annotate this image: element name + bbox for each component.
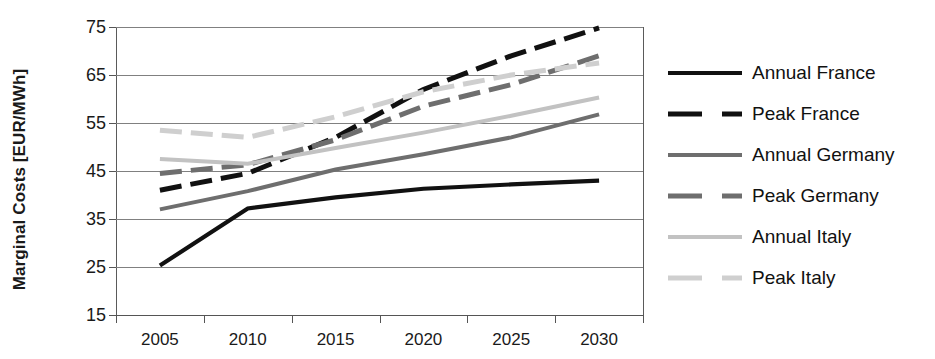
legend-item-peak-france[interactable]: Peak France — [668, 93, 928, 134]
legend-item-annual-italy[interactable]: Annual Italy — [668, 216, 928, 257]
legend-swatch-icon — [668, 271, 742, 285]
legend-item-annual-france[interactable]: Annual France — [668, 52, 928, 93]
x-tick-0 — [116, 315, 117, 323]
x-tick-label-2005: 2005 — [141, 330, 179, 350]
series-line-peak-italy — [160, 63, 599, 137]
legend-swatch-icon — [668, 189, 742, 203]
chart-figure: Marginal Costs [EUR/MWh] 15253545556575 … — [0, 0, 935, 359]
plot-area: 15253545556575 200520102015202020252030 — [116, 27, 643, 315]
x-tick-label-2010: 2010 — [229, 330, 267, 350]
y-tick-35 — [109, 219, 116, 220]
x-tick-4 — [467, 315, 468, 323]
y-tick-15 — [109, 315, 116, 316]
x-tick-1 — [204, 315, 205, 323]
y-tick-label-55: 55 — [86, 113, 106, 134]
x-tick-label-2030: 2030 — [580, 330, 618, 350]
legend-swatch-icon — [668, 148, 742, 162]
y-axis-title: Marginal Costs [EUR/MWh] — [0, 0, 40, 359]
y-tick-75 — [109, 27, 116, 28]
plot-right-border — [643, 27, 644, 315]
legend-swatch-icon — [668, 107, 742, 121]
y-tick-label-15: 15 — [86, 305, 106, 326]
legend-swatch-icon — [668, 230, 742, 244]
y-tick-label-65: 65 — [86, 65, 106, 86]
legend-label: Annual Italy — [752, 226, 851, 248]
y-tick-45 — [109, 171, 116, 172]
y-tick-label-25: 25 — [86, 257, 106, 278]
y-tick-label-75: 75 — [86, 17, 106, 38]
legend-label: Peak Germany — [752, 185, 879, 207]
x-tick-6 — [643, 315, 644, 323]
x-tick-label-2025: 2025 — [492, 330, 530, 350]
legend-label: Annual France — [752, 62, 876, 84]
x-tick-2 — [292, 315, 293, 323]
legend-item-annual-germany[interactable]: Annual Germany — [668, 134, 928, 175]
chart-legend: Annual FrancePeak FranceAnnual GermanyPe… — [668, 52, 928, 298]
y-tick-55 — [109, 123, 116, 124]
legend-item-peak-italy[interactable]: Peak Italy — [668, 257, 928, 298]
series-line-annual-france — [160, 181, 599, 266]
legend-label: Peak Italy — [752, 267, 835, 289]
series-group — [116, 27, 643, 315]
x-tick-label-2020: 2020 — [404, 330, 442, 350]
legend-label: Annual Germany — [752, 144, 895, 166]
x-tick-3 — [380, 315, 381, 323]
legend-label: Peak France — [752, 103, 860, 125]
y-tick-65 — [109, 75, 116, 76]
y-tick-25 — [109, 267, 116, 268]
legend-swatch-icon — [668, 66, 742, 80]
y-tick-label-35: 35 — [86, 209, 106, 230]
x-tick-5 — [555, 315, 556, 323]
x-tick-label-2015: 2015 — [317, 330, 355, 350]
legend-item-peak-germany[interactable]: Peak Germany — [668, 175, 928, 216]
y-tick-label-45: 45 — [86, 161, 106, 182]
